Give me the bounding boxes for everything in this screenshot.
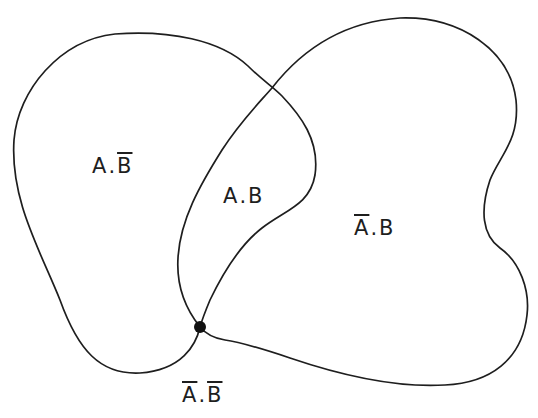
label-not-a-not-b-second: B	[207, 383, 222, 407]
label-not-a-and-b-second: B	[379, 216, 394, 240]
label-a-and-b-second: B	[248, 184, 263, 208]
label-a-and-b-first: A	[223, 184, 238, 208]
label-a-and-b-sep: .	[238, 184, 248, 208]
junction-point	[194, 321, 206, 333]
label-not-a-and-b: A.B	[354, 218, 394, 239]
label-a-not-b: A.B	[92, 156, 132, 177]
label-not-a-and-b-sep: .	[369, 216, 379, 240]
label-a-and-b: A.B	[223, 186, 263, 207]
venn-diagram	[0, 0, 538, 418]
set-a-boundary	[14, 33, 316, 373]
label-a-not-b-second: B	[117, 154, 132, 178]
label-not-a-not-b: A.B	[182, 385, 222, 406]
label-not-a-not-b-sep: .	[197, 383, 207, 407]
label-a-not-b-first: A	[92, 154, 107, 178]
label-not-a-not-b-first: A	[182, 383, 197, 407]
label-not-a-and-b-first: A	[354, 216, 369, 240]
label-a-not-b-sep: .	[107, 154, 117, 178]
